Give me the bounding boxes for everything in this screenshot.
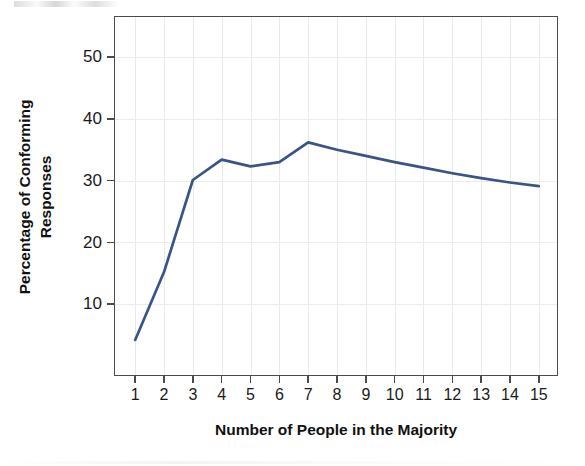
x-tick-label: 8 [333, 387, 342, 403]
x-tick-label: 7 [304, 387, 313, 403]
x-tick-label: 2 [160, 387, 169, 403]
x-tick-label: 1 [131, 387, 140, 403]
y-tick-mark: 40 [107, 118, 115, 120]
conformity-line [135, 142, 539, 340]
y-tick-label: 40 [83, 110, 102, 127]
x-axis-title: Number of People in the Majority [114, 422, 558, 438]
x-tick-label: 10 [386, 387, 404, 403]
x-tick-label: 9 [361, 387, 370, 403]
scan-artifact-bottom [0, 461, 585, 464]
x-tick-label: 14 [501, 387, 519, 403]
x-tick-label: 6 [275, 387, 284, 403]
y-tick-label: 20 [83, 233, 102, 250]
x-tick-label: 4 [217, 387, 226, 403]
x-tick-label: 11 [415, 387, 432, 403]
y-tick-mark: 20 [107, 242, 115, 244]
y-tick-mark: 10 [107, 303, 115, 305]
chart-figure: Percentage of Conforming Responses 10203… [0, 0, 585, 466]
x-tick-label: 13 [472, 387, 490, 403]
plot-area: 1020304050 123456789101112131415 [114, 16, 558, 376]
scan-artifact-top [14, 1, 118, 7]
x-tick-label: 12 [443, 387, 461, 403]
x-tick-label: 3 [188, 387, 197, 403]
data-series-layer [115, 17, 559, 377]
y-tick-label: 10 [83, 295, 102, 312]
y-axis-title-text: Percentage of Conforming Responses [15, 89, 57, 304]
y-tick-mark: 30 [107, 180, 115, 182]
x-tick-label: 5 [246, 387, 255, 403]
y-tick-label: 50 [83, 48, 102, 65]
y-tick-label: 30 [83, 171, 102, 188]
y-tick-mark: 50 [107, 56, 115, 58]
x-tick-label: 15 [530, 387, 548, 403]
y-axis-title: Percentage of Conforming Responses [12, 80, 60, 218]
